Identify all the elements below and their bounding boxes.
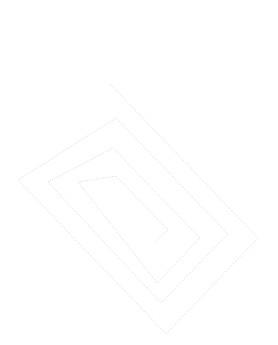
spiral-drawing [0,0,278,345]
figure-canvas [0,0,278,345]
background-rect [0,0,278,345]
